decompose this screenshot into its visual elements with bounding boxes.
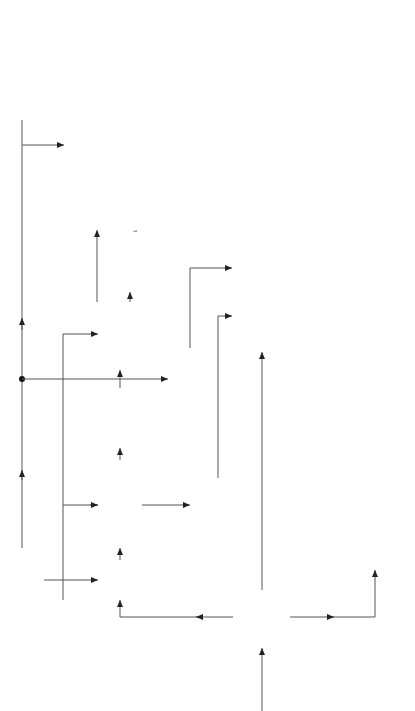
pal-decoder-diagram bbox=[0, 0, 415, 711]
connections bbox=[19, 120, 375, 711]
